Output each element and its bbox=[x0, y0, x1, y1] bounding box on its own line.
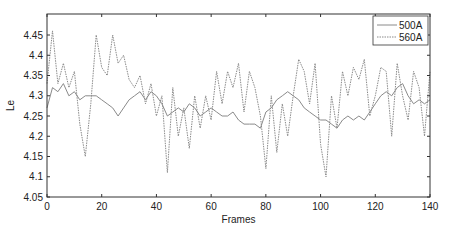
x-tick-label: 100 bbox=[312, 201, 329, 212]
line-chart: 0204060801001201404.054.14.154.24.254.34… bbox=[0, 0, 454, 232]
y-tick-label: 4.4 bbox=[29, 50, 43, 61]
y-tick-label: 4.2 bbox=[29, 131, 43, 142]
x-tick-label: 140 bbox=[422, 201, 439, 212]
y-tick-label: 4.3 bbox=[29, 90, 43, 101]
x-tick-label: 20 bbox=[96, 201, 108, 212]
y-tick-label: 4.35 bbox=[24, 70, 44, 81]
x-tick-label: 80 bbox=[260, 201, 272, 212]
legend-label: 500A bbox=[399, 20, 423, 31]
y-tick-label: 4.1 bbox=[29, 171, 43, 182]
x-tick-label: 60 bbox=[206, 201, 218, 212]
chart-container: 0204060801001201404.054.14.154.24.254.34… bbox=[0, 0, 454, 232]
y-tick-label: 4.15 bbox=[24, 151, 44, 162]
y-tick-label: 4.45 bbox=[24, 30, 44, 41]
y-axis-label: Le bbox=[5, 100, 16, 112]
y-tick-label: 4.05 bbox=[24, 192, 44, 203]
y-tick-label: 4.25 bbox=[24, 111, 44, 122]
x-axis-label: Frames bbox=[222, 214, 256, 225]
x-tick-label: 0 bbox=[44, 201, 50, 212]
series-line-560A bbox=[47, 31, 430, 177]
x-tick-label: 120 bbox=[367, 201, 384, 212]
legend-label: 560A bbox=[399, 32, 423, 43]
x-tick-label: 40 bbox=[151, 201, 163, 212]
series-line-500A bbox=[47, 84, 430, 129]
